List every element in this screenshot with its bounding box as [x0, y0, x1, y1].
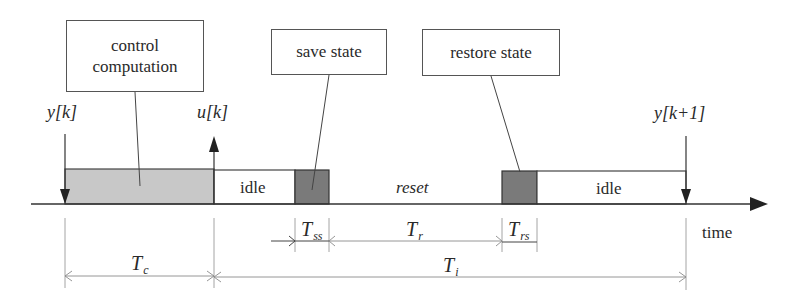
- restore-callout-leader: [491, 76, 520, 172]
- reset-label: reset: [396, 179, 428, 196]
- tr-label: Tr: [406, 219, 423, 239]
- control-callout-line2: computation: [93, 56, 178, 77]
- idle-label-2: idle: [596, 180, 622, 197]
- control-computation-callout: control computation: [66, 20, 204, 92]
- yk-label: y[k]: [47, 103, 77, 121]
- idle-label-1: idle: [240, 179, 266, 196]
- save-state-label: save state: [296, 41, 362, 62]
- time-axis-label: time: [702, 224, 732, 241]
- tss-label: Tss: [301, 219, 322, 239]
- ti-label: Ti: [443, 255, 458, 275]
- uk-label: u[k]: [197, 103, 228, 121]
- uk-arrowhead: [209, 136, 219, 152]
- save-state-callout: save state: [271, 29, 387, 75]
- tc-label: Tc: [131, 253, 148, 273]
- restore-state-segment: [502, 171, 537, 204]
- restore-state-callout: restore state: [422, 29, 560, 76]
- time-axis-arrowhead: [750, 197, 768, 211]
- trs-label: Trs: [508, 219, 529, 239]
- control-callout-line1: control: [93, 35, 178, 56]
- restore-state-label: restore state: [450, 42, 532, 63]
- timing-diagram: control computation save state restore s…: [0, 0, 794, 305]
- yk1-label: y[k+1]: [654, 104, 705, 122]
- extension-lines: [65, 218, 686, 290]
